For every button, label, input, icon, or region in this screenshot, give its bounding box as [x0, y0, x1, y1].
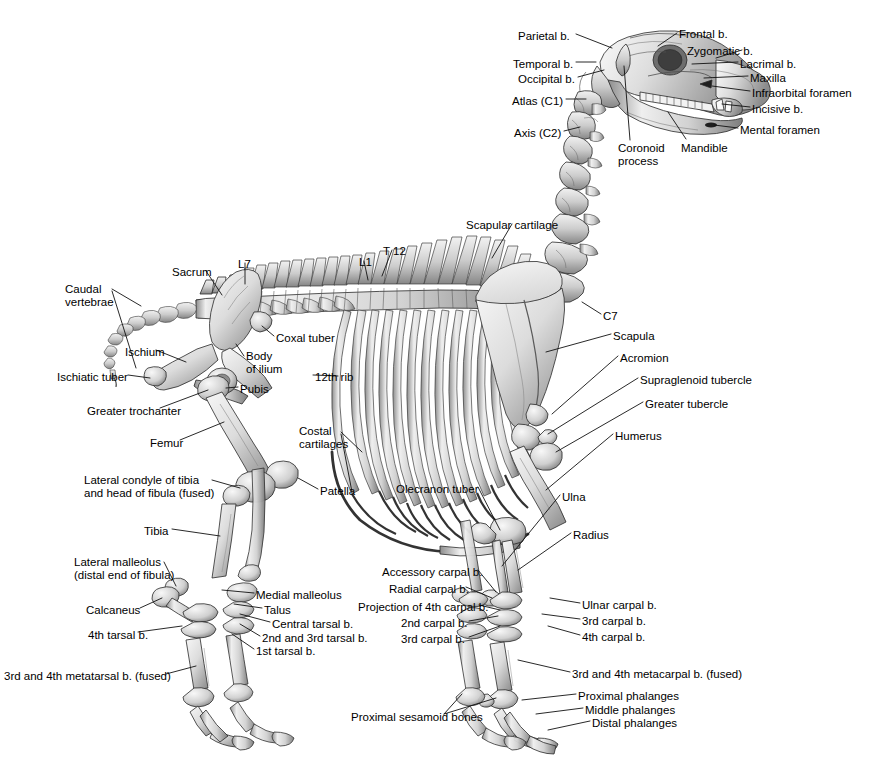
label-third-carpal-right: 3rd carpal b.: [582, 615, 646, 628]
label-ulnar-carpal: Ulnar carpal b.: [582, 599, 657, 612]
label-calcaneus: Calcaneus: [86, 604, 140, 617]
label-axis-c2: Axis (C2): [514, 127, 561, 140]
label-central-tarsal: Central tarsal b.: [272, 618, 353, 631]
label-zygomatic: Zygomatic b.: [687, 45, 753, 58]
label-radial-carpal: Radial carpal b.: [389, 583, 469, 596]
label-middle-phalanges: Middle phalanges: [585, 704, 675, 717]
label-greater-tubercle: Greater tubercle: [645, 398, 728, 411]
label-incisive: Incisive b.: [752, 103, 803, 116]
label-atlas-c1: Atlas (C1): [512, 95, 563, 108]
label-greater-trochanter: Greater trochanter: [87, 405, 181, 418]
label-lateral-condyle-tibia: Lateral condyle of tibia and head of fib…: [84, 474, 214, 499]
label-proximal-phalanges: Proximal phalanges: [578, 690, 679, 703]
label-third-carpal-left: 3rd carpal b.: [401, 633, 465, 646]
label-tibia: Tibia: [144, 525, 169, 538]
figure-canvas: Parietal b.Frontal b.Zygomatic b.Tempora…: [0, 0, 878, 767]
label-second-third-tarsal: 2nd and 3rd tarsal b.: [262, 632, 368, 645]
label-sacrum: Sacrum: [172, 266, 212, 279]
label-occipital: Occipital b.: [518, 73, 575, 86]
label-femur: Femur: [150, 437, 183, 450]
label-medial-malleolus: Medial malleolus: [256, 589, 342, 602]
label-ischium: Ischium: [125, 346, 165, 359]
label-third-fourth-metacarpal: 3rd and 4th metacarpal b. (fused): [572, 668, 742, 681]
label-fourth-carpal: 4th carpal b.: [582, 631, 645, 644]
label-c7: C7: [603, 310, 618, 323]
label-projection-fourth-carpal: Projection of 4th carpal b.: [358, 601, 488, 614]
label-maxilla: Maxilla: [750, 72, 786, 85]
label-twelfth-rib: 12th rib: [315, 371, 353, 384]
label-supraglenoid-tubercle: Supraglenoid tubercle: [640, 374, 752, 387]
label-pubis: Pubis: [240, 383, 269, 396]
label-frontal: Frontal b.: [679, 28, 728, 41]
label-accessory-carpal: Accessory carpal b.: [382, 566, 482, 579]
label-lateral-malleolus: Lateral malleolus (distal end of fibula): [74, 556, 174, 581]
label-olecranon-tuber: Olecranon tuber: [396, 483, 478, 496]
label-mandible: Mandible: [681, 142, 728, 155]
label-infraorbital-foramen: Infraorbital foramen: [752, 87, 852, 100]
label-humerus: Humerus: [615, 430, 662, 443]
label-patella: Patella: [320, 485, 355, 498]
label-ischiatic-tuber: Ischiatic tuber: [57, 371, 128, 384]
label-coronoid-process: Coronoid process: [618, 142, 665, 167]
label-first-tarsal: 1st tarsal b.: [256, 645, 315, 658]
label-second-carpal: 2nd carpal b.: [401, 617, 468, 630]
label-talus: Talus: [264, 604, 291, 617]
label-proximal-sesamoid: Proximal sesamoid bones: [351, 711, 483, 724]
label-lacrimal: Lacrimal b.: [740, 58, 796, 71]
label-fourth-tarsal: 4th tarsal b.: [88, 629, 148, 642]
label-l7: L7: [238, 258, 251, 271]
label-mental-foramen: Mental foramen: [740, 124, 820, 137]
label-temporal: Temporal b.: [513, 58, 573, 71]
label-caudal-vertebrae: Caudal vertebrae: [65, 283, 114, 308]
label-body-of-ilium: Body of ilium: [246, 350, 282, 375]
label-parietal: Parietal b.: [518, 30, 570, 43]
label-acromion: Acromion: [620, 352, 669, 365]
scapula-group: [476, 261, 565, 450]
label-t12: T 12: [383, 245, 406, 258]
label-radius: Radius: [573, 529, 609, 542]
label-distal-phalanges: Distal phalanges: [592, 717, 677, 730]
label-scapula: Scapula: [613, 330, 655, 343]
label-ulna: Ulna: [562, 491, 586, 504]
label-third-fourth-metatarsal: 3rd and 4th metatarsal b. (fused): [4, 670, 171, 683]
label-scapular-cartilage: Scapular cartilage: [466, 219, 558, 232]
label-costal-cartilages: Costal cartilages: [299, 425, 348, 450]
label-coxal-tuber: Coxal tuber: [276, 332, 335, 345]
label-l1: L1: [359, 256, 372, 269]
